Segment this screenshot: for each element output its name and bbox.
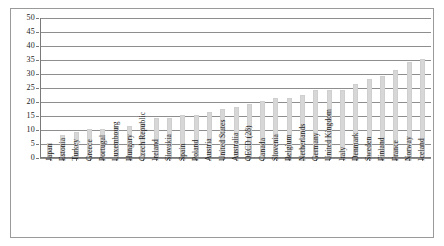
y-tick-label-0: 0 [31,154,35,162]
bar-slot [176,18,189,157]
x-tick-label: Germany [312,132,320,161]
x-tick-slot: Finland [376,159,389,237]
bar-slot [150,18,163,157]
x-tick-slot: Sweden [363,159,376,237]
x-tick-label: Estonia [59,138,67,161]
x-tick-slot: OECD (28) [243,159,256,237]
x-tick-label: Japan [46,143,54,161]
y-tick-label-30: 30 [27,70,35,78]
x-tick-slot: France [389,159,402,237]
x-tick-slot: Norway [402,159,415,237]
y-tick-mark-25 [36,88,39,89]
x-tick-label: Slovakia [166,134,174,161]
bar-slot [203,18,216,157]
x-tick-slot: Netherlands [296,159,309,237]
x-tick-slot: United Kingdom [323,159,336,237]
bar-slot [389,18,402,157]
x-tick-slot: Italy [336,159,349,237]
y-tick-mark-20 [36,102,39,103]
bar-slot [56,18,69,157]
x-tick-label: Poland [192,140,200,161]
x-tick-label: Ireland [152,139,160,161]
x-tick-slot: Estonia [56,159,69,237]
x-tick-label: Portugal [99,135,107,161]
x-tick-label: OECD (28) [246,125,254,161]
y-tick-mark-30 [36,74,39,75]
bar-slot [256,18,269,157]
y-tick-label-45: 45 [27,28,35,36]
x-tick-label: Hungary [126,134,134,161]
bar-slot [43,18,56,157]
x-tick-label: Norway [405,136,413,161]
x-tick-slot: Luxembourg [110,159,123,237]
y-tick-label-35: 35 [27,56,35,64]
y-tick-mark-15 [36,116,39,117]
x-tick-slot: Iceland [416,159,429,237]
y-tick-mark-35 [36,60,39,61]
x-tick-slot: Australia [229,159,242,237]
y-tick-label-5: 5 [31,140,35,148]
x-tick-label: France [392,140,400,161]
y-tick-mark-40 [36,46,39,47]
bar-slot [83,18,96,157]
x-tick-slot: Slovakia [163,159,176,237]
x-tick-label: Canada [259,138,267,161]
x-tick-slot: Germany [309,159,322,237]
x-tick-slot: Canada [256,159,269,237]
bar-slot [336,18,349,157]
bar-slot [416,18,429,157]
x-tick-label: Luxembourg [112,121,120,161]
x-tick-slot: Austria [203,159,216,237]
y-tick-mark-50 [36,18,39,19]
x-axis-tick-labels: JapanEstoniaTurkeyGreecePortugalLuxembou… [41,159,431,237]
x-tick-slot: Poland [189,159,202,237]
x-tick-label: Slovenia [272,134,280,161]
x-tick-label: Italy [339,147,347,161]
bar-slot [70,18,83,157]
x-tick-slot: Japan [43,159,56,237]
x-tick-slot: Turkey [70,159,83,237]
y-axis-tick-labels: 05101520253035404550 [11,18,39,158]
x-tick-label: Iceland [419,138,427,161]
y-tick-label-40: 40 [27,42,35,50]
x-tick-slot: Belgium [283,159,296,237]
x-tick-slot: Spain [176,159,189,237]
y-tick-mark-5 [36,144,39,145]
x-tick-label: Turkey [73,139,81,161]
x-tick-label: Australia [232,133,240,161]
x-tick-slot: Czech Republic [136,159,149,237]
figure-frame: 05101520253035404550 JapanEstoniaTurkeyG… [10,8,434,238]
x-tick-slot: Denmark [349,159,362,237]
y-tick-label-15: 15 [27,112,35,120]
x-tick-label: United Kingdom [325,109,333,161]
x-tick-slot: Slovenia [269,159,282,237]
x-tick-label: Greece [86,139,94,161]
x-tick-label: Belgium [286,134,294,161]
x-tick-slot: Greece [83,159,96,237]
x-tick-label: Czech Republic [139,112,147,161]
x-tick-label: Spain [179,143,187,161]
y-tick-label-50: 50 [27,14,35,22]
x-tick-slot: Hungary [123,159,136,237]
y-tick-label-20: 20 [27,98,35,106]
y-tick-label-25: 25 [27,84,35,92]
x-tick-label: Netherlands [299,124,307,161]
y-tick-mark-0 [36,158,39,159]
y-tick-mark-10 [36,130,39,131]
x-tick-label: Finland [379,137,387,161]
x-tick-slot: Portugal [96,159,109,237]
x-tick-label: Denmark [352,132,360,161]
x-tick-slot: Ireland [150,159,163,237]
x-tick-label: United States [219,119,227,161]
x-tick-label: Austria [206,138,214,161]
bar-slot [189,18,202,157]
x-tick-label: Sweden [365,137,373,161]
y-tick-label-10: 10 [27,126,35,134]
y-tick-mark-45 [36,32,39,33]
x-tick-slot: United States [216,159,229,237]
